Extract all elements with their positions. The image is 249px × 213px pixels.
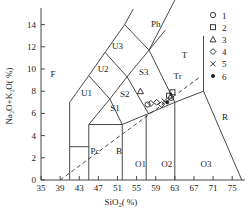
x-tick-label: 63 (170, 183, 180, 193)
x-tick-label: 39 (56, 183, 66, 193)
x-tick-label: 75 (228, 183, 238, 193)
field-label-s3: S3 (139, 67, 149, 77)
field-boundary (127, 77, 149, 115)
x-tick-label: 51 (113, 183, 122, 193)
y-tick-label: 10 (27, 64, 37, 74)
y-tick-label: 6 (32, 108, 37, 118)
field-label-o3: O3 (200, 159, 211, 169)
field-label-pc: Pc (91, 146, 100, 156)
x-axis-label: SiO2( %) (105, 197, 138, 208)
field-label-b: B (116, 146, 122, 156)
triangle-marker (210, 36, 216, 42)
x-tick-label: 47 (94, 183, 104, 193)
cross-marker (211, 61, 216, 66)
field-label-s1: S1 (110, 103, 120, 113)
field-boundary (89, 99, 110, 125)
y-tick-label: 8 (32, 86, 37, 96)
y-tick-label: 0 (32, 175, 37, 185)
legend-label: 6 (222, 72, 227, 82)
field-label-r: R (222, 112, 228, 122)
field-label-u2: U2 (98, 64, 109, 74)
x-tick-label: 35 (37, 183, 47, 193)
legend-label: 5 (222, 59, 227, 69)
x-tick-label: 71 (209, 183, 218, 193)
y-tick-label: 14 (27, 20, 37, 30)
y-tick-label: 2 (32, 153, 37, 163)
field-label-f: F (50, 69, 55, 79)
x-ticks: 3539434751555963677175 (37, 176, 238, 193)
circle-marker (210, 12, 215, 17)
x-tick-label: 59 (151, 183, 161, 193)
field-label-ph: Ph (151, 19, 161, 29)
field-boundary (89, 76, 110, 99)
legend-label: 3 (222, 35, 227, 45)
diamond-marker (210, 49, 216, 55)
dot-marker (211, 74, 214, 77)
y-ticks: 02468101214 (27, 20, 45, 185)
field-label-o1: O1 (135, 159, 146, 169)
triangle-marker (137, 88, 143, 94)
x-tick-label: 67 (189, 183, 199, 193)
field-label-o2: O2 (161, 159, 172, 169)
diamond-marker (148, 100, 154, 106)
y-tick-label: 12 (27, 42, 36, 52)
x-tick-label: 43 (75, 183, 85, 193)
field-label-u3: U3 (112, 41, 123, 51)
field-label-t: T (182, 50, 188, 60)
legend-label: 1 (222, 11, 227, 21)
legend-label: 4 (222, 47, 227, 57)
square-marker (211, 25, 216, 30)
field-label-u1: U1 (81, 88, 92, 98)
field-label-tr: Tr (174, 71, 182, 81)
y-tick-label: 4 (32, 131, 37, 141)
tas-diagram: 3539434751555963677175 02468101214 FPhU3… (0, 0, 249, 213)
x-tick-label: 55 (132, 183, 142, 193)
field-label-s2: S2 (120, 89, 130, 99)
y-axis-label: Na₂O+K₂O( %) (4, 67, 14, 124)
field-boundary (110, 50, 149, 124)
legend: 123456 (210, 11, 227, 82)
dot-marker (166, 101, 169, 104)
legend-label: 2 (222, 23, 227, 33)
